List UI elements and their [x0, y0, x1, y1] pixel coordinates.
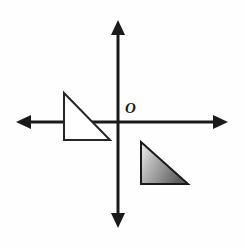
coordinate-plane-figure: O [0, 0, 245, 248]
x-axis-left-arrowhead-icon [16, 115, 31, 129]
x-axis-right-arrowhead-icon [213, 115, 228, 129]
y-axis [111, 20, 125, 228]
x-axis [16, 115, 228, 129]
shaded-triangle-quadrant-four [141, 142, 188, 184]
unfilled-triangle-quadrant-two [64, 93, 110, 140]
origin-label: O [125, 101, 136, 116]
y-axis-down-arrowhead-icon [111, 213, 125, 228]
y-axis-up-arrowhead-icon [111, 20, 125, 35]
geometry-diagram-svg [0, 0, 245, 248]
